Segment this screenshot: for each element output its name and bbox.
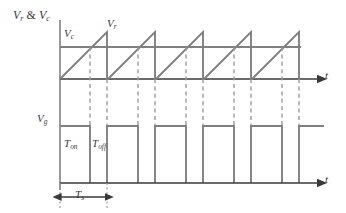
- y-axis-label-sub2: c: [46, 14, 50, 23]
- signal-label-vg: Vg: [37, 113, 47, 125]
- signal-label-vc-v: V: [64, 27, 71, 39]
- timing-label-ts: Ts: [75, 189, 84, 201]
- signal-label-vg-sub: g: [44, 117, 48, 126]
- signal-label-vg-v: V: [37, 112, 44, 124]
- y-axis-label-ampersand: &: [24, 8, 39, 22]
- timing-label-toff-sub: off: [98, 142, 106, 151]
- waveform-figure: Vr & Vc Vc Vr Vg Ton Toff Ts t t: [0, 0, 346, 213]
- y-axis-label-vr-vc: Vr & Vc: [13, 9, 50, 23]
- signal-label-vr-v: V: [107, 17, 114, 29]
- timing-label-ts-sub: s: [81, 193, 84, 202]
- signal-label-vr-sub: r: [114, 22, 117, 31]
- projection-dashed-lines: [90, 47, 299, 126]
- timing-label-ton: Ton: [64, 138, 78, 150]
- sawtooth-ramp-vr: [60, 32, 299, 79]
- signal-label-vr: Vr: [107, 18, 117, 30]
- gate-pulse-train-vg: [60, 126, 324, 183]
- signal-label-vc: Vc: [64, 28, 74, 40]
- waveform-svg: [0, 0, 346, 213]
- axis-label-t-top: t: [325, 70, 328, 81]
- timing-label-toff: Toff: [92, 138, 106, 150]
- axis-label-t-bottom: t: [325, 174, 328, 185]
- signal-label-vc-sub: c: [71, 32, 74, 41]
- timing-label-ton-sub: on: [70, 142, 77, 151]
